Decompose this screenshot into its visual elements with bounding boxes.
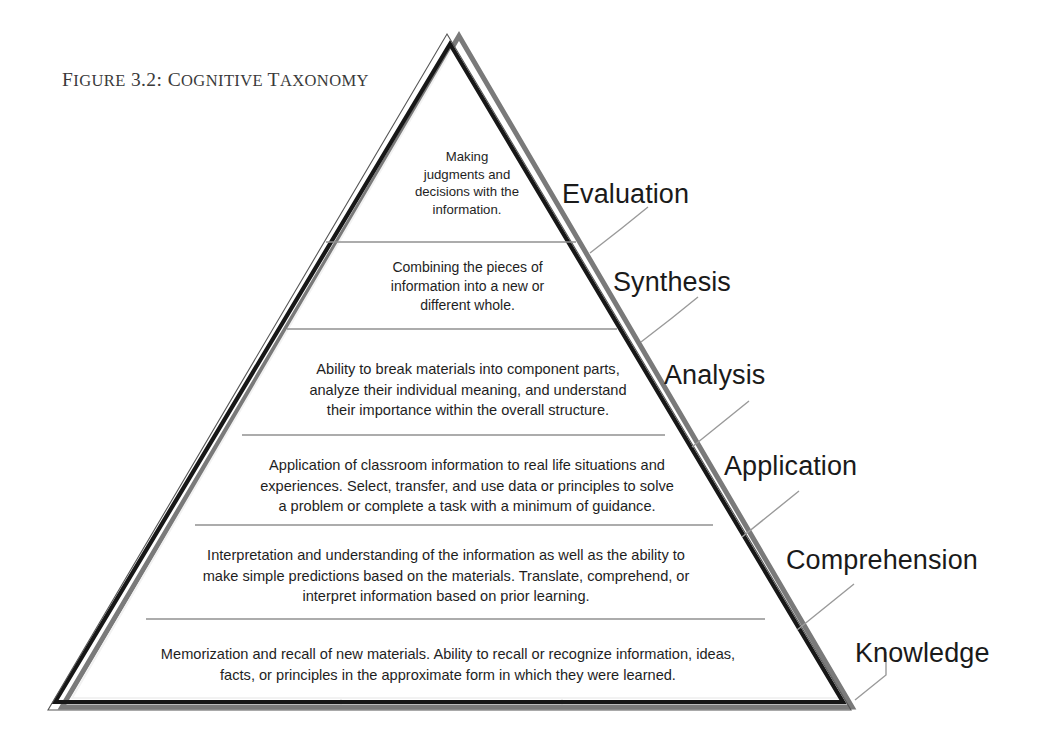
tier-description-knowledge: Memorization and recall of new materials… [92,644,804,685]
level-label-knowledge: Knowledge [855,638,990,669]
tick-application [742,491,799,537]
tier-description-synthesis: Combining the pieces of information into… [344,258,591,316]
level-label-synthesis: Synthesis [613,267,731,298]
level-label-evaluation: Evaluation [562,179,689,210]
tick-analysis [692,401,749,447]
level-label-comprehension: Comprehension [786,545,978,576]
tier-description-analysis: Ability to break materials into componen… [262,359,674,421]
tier-description-comprehension: Interpretation and understanding of the … [130,545,762,607]
tier-description-evaluation: Making judgments and decisions with the … [379,148,555,218]
tier-description-application: Application of classroom information to … [186,455,748,517]
cognitive-taxonomy-figure: FIGURE 3.2: COGNITIVE TAXONOMY [0,0,1043,748]
level-label-application: Application [724,451,857,482]
tick-synthesis [641,297,698,342]
tick-comprehension [797,584,854,630]
tick-evaluation [590,207,648,253]
level-label-analysis: Analysis [664,360,765,391]
